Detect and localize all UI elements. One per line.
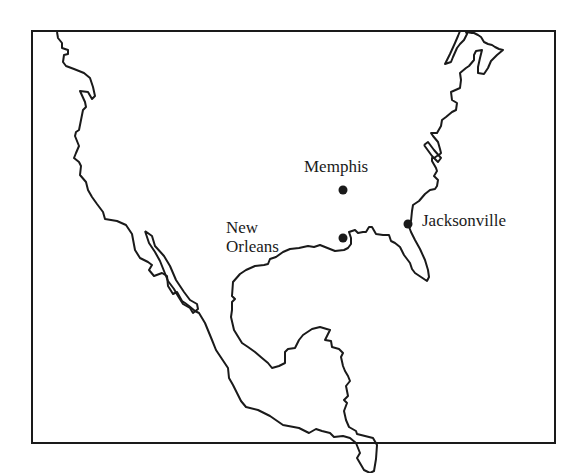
city-dot-memphis [339,186,348,195]
city-label-new-orleans: New Orleans [226,218,279,256]
map-canvas [0,0,579,473]
city-dot-jacksonville [404,220,413,229]
baja-peninsula [145,231,198,313]
city-label-jacksonville: Jacksonville [422,211,506,230]
city-dot-new-orleans [339,234,348,243]
city-label-new-orleans-line2: Orleans [226,237,279,256]
map-frame [32,31,555,443]
city-label-new-orleans-line1: New [226,218,279,237]
east-coastline [408,31,503,224]
city-label-memphis: Memphis [304,157,368,176]
